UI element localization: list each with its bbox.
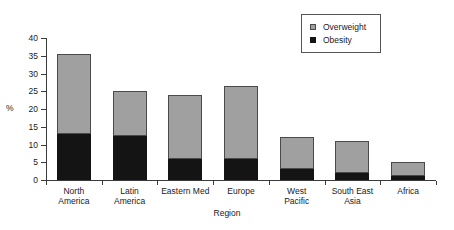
- legend-item-obesity: Obesity: [310, 34, 366, 46]
- y-axis-tick-label: 0: [14, 176, 38, 185]
- bar-group: [335, 38, 369, 180]
- y-axis-tick-label: 30: [14, 70, 38, 79]
- x-axis-label-line: America: [87, 196, 173, 206]
- bar-segment-obesity: [224, 159, 258, 180]
- bar-segment-overweight: [224, 86, 258, 159]
- x-axis-tick: [213, 181, 214, 185]
- x-axis-category-label: Africa: [365, 186, 451, 196]
- gray-square-icon: [310, 24, 316, 30]
- y-axis-tick-label: 25: [14, 87, 38, 96]
- y-axis-tick-label: 15: [14, 123, 38, 132]
- y-axis-tick-label: 5: [14, 158, 38, 167]
- plot-area: [46, 38, 436, 180]
- bar-segment-overweight: [391, 162, 425, 176]
- x-axis-tick: [102, 181, 103, 185]
- x-axis-title: Region: [0, 209, 454, 218]
- x-axis-label-line: Africa: [365, 186, 451, 196]
- bar-segment-overweight: [168, 95, 202, 159]
- y-axis-tick-label: 35: [14, 52, 38, 61]
- y-axis-tick-label: 40: [14, 34, 38, 43]
- bar-group: [224, 38, 258, 180]
- bar-segment-obesity: [57, 134, 91, 180]
- bar-segment-obesity: [335, 173, 369, 180]
- bar-segment-obesity: [168, 159, 202, 180]
- x-axis-tick: [46, 181, 47, 185]
- bar-segment-overweight: [280, 137, 314, 169]
- bar-segment-overweight: [335, 141, 369, 173]
- bar-segment-obesity: [113, 136, 147, 180]
- chart-container: % 0510152025303540 NorthAmericaLatinAmer…: [0, 0, 454, 230]
- bar-segment-obesity: [391, 176, 425, 180]
- x-axis-tick: [325, 181, 326, 185]
- black-square-icon: [310, 37, 316, 43]
- bar-segment-overweight: [113, 91, 147, 135]
- bar-segment-obesity: [280, 169, 314, 180]
- x-axis-tick: [436, 181, 437, 185]
- y-axis-tick-label: 20: [14, 105, 38, 114]
- x-axis-label-line: Asia: [309, 196, 395, 206]
- bar-segment-overweight: [57, 54, 91, 134]
- bar-group: [168, 38, 202, 180]
- x-axis-tick: [380, 181, 381, 185]
- x-axis-line: [46, 180, 436, 181]
- y-axis-title: %: [6, 104, 14, 113]
- bar-group: [391, 38, 425, 180]
- bar-group: [113, 38, 147, 180]
- bar-group: [57, 38, 91, 180]
- legend-item-overweight: Overweight: [310, 21, 366, 33]
- y-axis-tick-label: 10: [14, 141, 38, 150]
- legend-label-obesity: Obesity: [323, 36, 352, 45]
- legend-label-overweight: Overweight: [323, 23, 366, 32]
- bar-group: [280, 38, 314, 180]
- x-axis-tick: [157, 181, 158, 185]
- x-axis-tick: [269, 181, 270, 185]
- chart-legend: Overweight Obesity: [301, 14, 381, 53]
